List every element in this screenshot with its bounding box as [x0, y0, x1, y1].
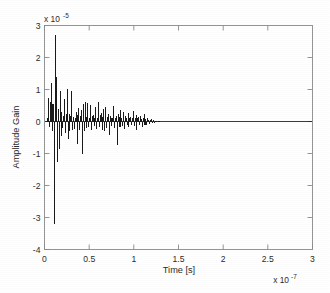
- x-axis-exponent-label: x 10 -7: [273, 273, 297, 285]
- y-axis-tickmarks: [45, 26, 313, 250]
- x-axis-tickmarks: [45, 26, 313, 250]
- x-tick-label: 0: [42, 254, 47, 264]
- x-tick-label: 2: [221, 254, 226, 264]
- y-axis-exponent-label: x 10 -5: [44, 12, 69, 24]
- x-tick-label: 1.5: [173, 254, 185, 264]
- data-series-impulse-response: [48, 35, 161, 224]
- figure-canvas: 3210-1-2-3-4 00.511.522.53 x 10 -5 x 10 …: [0, 0, 330, 293]
- x-tick-label: 0.5: [83, 254, 95, 264]
- x-axis-title: Time [s]: [163, 265, 195, 275]
- x-axis-tick-labels: 00.511.522.53: [42, 254, 315, 264]
- y-tick-label: 1: [36, 85, 41, 95]
- y-tick-label: 2: [36, 53, 41, 63]
- y-tick-label: 0: [36, 117, 41, 127]
- y-tick-label: 3: [36, 21, 41, 31]
- x-exponent-power: -7: [291, 273, 297, 280]
- y-axis-tick-labels: 3210-1-2-3-4: [33, 21, 41, 255]
- y-tick-label: -3: [33, 213, 41, 223]
- y-axis-title: Amplitude Gain: [11, 106, 21, 169]
- y-tick-label: -2: [33, 181, 41, 191]
- x-tick-label: 1: [131, 254, 136, 264]
- chart-svg: 3210-1-2-3-4 00.511.522.53 x 10 -5 x 10 …: [0, 0, 330, 293]
- y-exponent-base: x 10: [44, 14, 60, 24]
- x-exponent-base: x 10: [273, 275, 289, 285]
- y-tick-label: -1: [33, 149, 41, 159]
- y-exponent-power: -5: [63, 12, 69, 19]
- x-tick-label: 3: [310, 254, 315, 264]
- plot-frame: [45, 26, 313, 250]
- y-tick-label: -4: [33, 245, 41, 255]
- x-tick-label: 2.5: [262, 254, 274, 264]
